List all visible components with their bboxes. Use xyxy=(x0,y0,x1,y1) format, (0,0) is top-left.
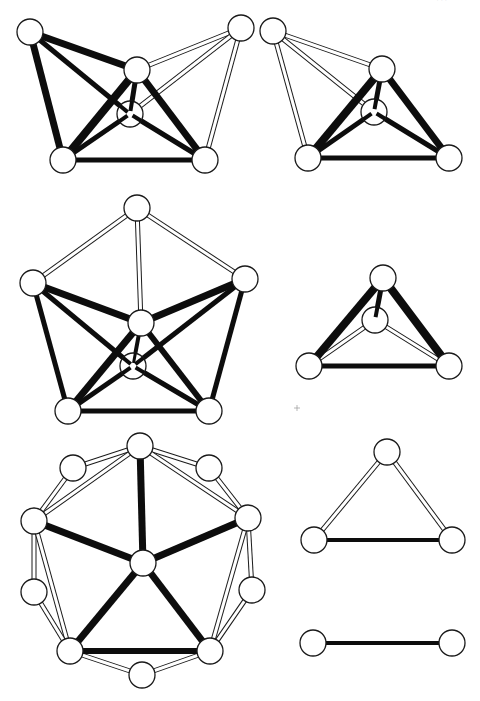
node-E xyxy=(192,147,218,173)
graph-7-single-edge xyxy=(300,630,465,656)
black-edge-C5-BRb xyxy=(143,563,210,651)
node-C5 xyxy=(130,550,156,576)
node-A xyxy=(17,19,43,45)
nodes xyxy=(296,265,462,379)
node-J xyxy=(295,145,321,171)
node-BL xyxy=(55,398,81,424)
node-V2 xyxy=(439,630,465,656)
nodes xyxy=(301,439,465,553)
node-UR xyxy=(196,455,222,481)
white-edges xyxy=(130,28,241,160)
inner-notch-N xyxy=(134,353,136,363)
black-edge-H-K xyxy=(382,69,449,158)
white-edge-T-R xyxy=(137,208,245,279)
black-edge-A-B xyxy=(30,32,137,70)
node-K xyxy=(436,145,462,171)
white-edge-F-E xyxy=(205,28,241,160)
node-BR xyxy=(196,398,222,424)
node-Rb xyxy=(235,505,261,531)
node-Bot xyxy=(129,662,155,688)
graph-diagram-canvas xyxy=(0,0,480,701)
white-edge-X-Y xyxy=(314,452,387,540)
black-edge-L-BL xyxy=(33,283,68,411)
node-Lb xyxy=(21,508,47,534)
node-G xyxy=(260,18,286,44)
inner-notch-C xyxy=(130,101,132,111)
node-S xyxy=(296,353,322,379)
node-Y xyxy=(301,527,327,553)
white-edge-X-Z xyxy=(387,452,452,540)
graph-3-pentagon-with-center xyxy=(20,195,258,424)
node-L xyxy=(20,270,46,296)
node-UL xyxy=(60,455,86,481)
node-B xyxy=(124,57,150,83)
node-V1 xyxy=(300,630,326,656)
white-edge-Top-Rb xyxy=(140,446,248,518)
node-ML xyxy=(21,579,47,605)
white-edge-F-B xyxy=(137,28,241,70)
white-edge-G-H xyxy=(273,31,382,69)
node-Top xyxy=(127,433,153,459)
graph-2-four-node-with-inner xyxy=(260,18,462,171)
black-edge-L-M xyxy=(33,283,141,323)
node-H xyxy=(369,56,395,82)
graph-6-triangle xyxy=(301,439,465,553)
black-edge-C5-Rb xyxy=(143,518,248,563)
graph-4-triangle-with-inner xyxy=(296,265,462,379)
node-MR xyxy=(239,577,265,603)
black-edge-C5-Lb xyxy=(34,521,143,563)
inner-notch-I xyxy=(375,99,377,109)
black-edge-P-U xyxy=(383,278,449,366)
node-P xyxy=(370,265,396,291)
node-Z xyxy=(439,527,465,553)
white-edge-Top-Lb xyxy=(34,446,140,521)
node-M xyxy=(128,310,154,336)
node-D xyxy=(50,147,76,173)
white-edges xyxy=(314,452,452,540)
graph-1-five-node-with-inner xyxy=(17,15,254,173)
node-T xyxy=(124,195,150,221)
white-edge-T-L xyxy=(33,208,137,283)
node-X xyxy=(374,439,400,465)
node-BRb xyxy=(197,638,223,664)
black-edge-C5-Top xyxy=(140,446,143,563)
white-edge-G-J xyxy=(273,31,308,158)
black-edge-C5-BLb xyxy=(70,563,143,651)
inner-notch-Q xyxy=(376,307,378,317)
black-edge-R-BR xyxy=(209,279,245,411)
node-U xyxy=(436,353,462,379)
node-F xyxy=(228,15,254,41)
white-edge-T-M xyxy=(137,208,141,323)
node-R xyxy=(232,266,258,292)
node-BLb xyxy=(57,638,83,664)
black-edge-A-D xyxy=(30,32,63,160)
print-artifact-cross xyxy=(294,405,300,411)
graph-5-decagon-star xyxy=(21,433,265,688)
